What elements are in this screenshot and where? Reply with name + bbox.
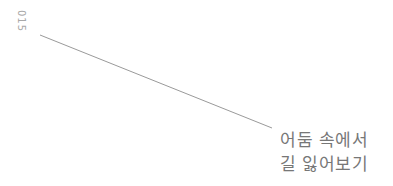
- chapter-title: 어둠 속에서 길 잃어보기: [280, 128, 368, 176]
- chapter-title-line-1: 어둠 속에서: [280, 128, 368, 152]
- chapter-title-line-2: 길 잃어보기: [280, 152, 368, 176]
